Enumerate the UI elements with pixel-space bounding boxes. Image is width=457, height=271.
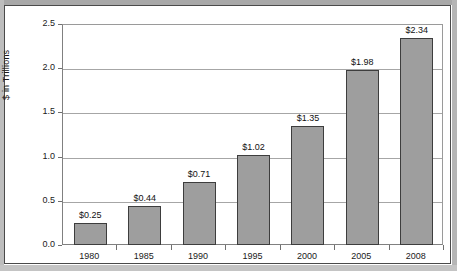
bar — [291, 126, 324, 245]
bar — [74, 223, 107, 245]
x-axis-tick-mark — [334, 245, 335, 250]
bar-value-label: $0.71 — [175, 170, 223, 179]
bar-value-label: $1.98 — [338, 58, 386, 67]
x-axis-tick-label: 1990 — [174, 252, 222, 261]
bar-series: $0.25$0.44$0.71$1.02$1.35$1.98$2.34 — [63, 24, 443, 245]
x-axis-tick-label: 2000 — [283, 252, 331, 261]
bar-value-label: $1.02 — [230, 143, 278, 152]
y-axis-tick-label: 0.0 — [27, 240, 55, 249]
x-axis-tick-mark — [225, 245, 226, 250]
chart-page: $ in Trillions 0.00.51.01.52.02.5 $0.25$… — [0, 0, 457, 271]
y-axis-tick-label: 2.5 — [27, 19, 55, 28]
bar-value-label: $0.44 — [121, 194, 169, 203]
x-axis-tick-label: 1980 — [65, 252, 113, 261]
x-axis-tick-mark — [443, 245, 444, 250]
figure-border: $ in Trillions 0.00.51.01.52.02.5 $0.25$… — [4, 5, 451, 264]
bar — [400, 38, 433, 245]
x-axis-tick-label: 1995 — [229, 252, 277, 261]
x-axis-tick-mark — [280, 245, 281, 250]
bar — [183, 182, 216, 245]
bar-value-label: $2.34 — [393, 26, 441, 35]
x-axis-tick-mark — [116, 245, 117, 250]
y-axis-tick-label: 0.5 — [27, 196, 55, 205]
x-axis-tick-label: 1985 — [120, 252, 168, 261]
x-axis-tick-mark — [171, 245, 172, 250]
scan-edge-right — [452, 0, 457, 271]
bar — [128, 206, 161, 245]
x-axis-tick-label: 2008 — [392, 252, 440, 261]
x-axis-tick-mark — [389, 245, 390, 250]
y-axis-tick-label: 2.0 — [27, 63, 55, 72]
y-axis-tick-mark — [58, 245, 62, 246]
bar — [346, 70, 379, 245]
y-axis-title: $ in Trillions — [1, 50, 11, 100]
x-axis-tick-label: 2005 — [337, 252, 385, 261]
bar — [237, 155, 270, 245]
y-axis-tick-label: 1.0 — [27, 152, 55, 161]
bar-value-label: $0.25 — [66, 211, 114, 220]
y-axis-tick-label: 1.5 — [27, 107, 55, 116]
scan-edge-bottom — [0, 265, 457, 271]
bar-value-label: $1.35 — [284, 114, 332, 123]
